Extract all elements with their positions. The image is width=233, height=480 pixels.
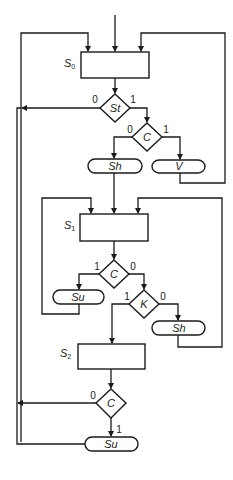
state-s0: S0 [64, 52, 149, 78]
decision-c2: C 1 0 [94, 260, 136, 288]
svg-text:Su: Su [71, 291, 84, 303]
output-su-1: Su [53, 290, 104, 304]
asm-chart: S0 S1 S2 St 0 1 C 0 1 C 1 0 K 1 0 C 0 1 [0, 0, 233, 480]
state-s2: S2 [60, 344, 145, 369]
svg-text:Sh: Sh [172, 322, 185, 334]
svg-text:1: 1 [163, 124, 169, 135]
svg-text:Su: Su [104, 438, 117, 450]
output-sh-2: Sh [152, 321, 205, 335]
decision-k: K 1 0 [124, 290, 166, 318]
svg-text:C: C [107, 397, 115, 409]
svg-text:0: 0 [90, 390, 96, 401]
svg-text:1: 1 [130, 94, 136, 105]
state-s1: S1 [64, 214, 148, 241]
svg-text:0: 0 [92, 94, 98, 105]
svg-text:S2: S2 [60, 347, 71, 360]
output-sh-1: Sh [88, 159, 142, 173]
svg-text:1: 1 [116, 424, 122, 435]
svg-text:1: 1 [124, 291, 130, 302]
svg-text:C: C [143, 131, 151, 143]
svg-text:Sh: Sh [108, 160, 121, 172]
svg-text:S1: S1 [64, 219, 75, 232]
svg-text:S0: S0 [64, 57, 75, 70]
svg-text:0: 0 [130, 261, 136, 272]
output-su-2: Su [85, 437, 138, 451]
svg-text:0: 0 [160, 291, 166, 302]
svg-text:1: 1 [94, 261, 100, 272]
svg-text:0: 0 [127, 124, 133, 135]
svg-text:K: K [140, 298, 148, 310]
decision-c1: C 0 1 [127, 123, 169, 151]
svg-text:St: St [110, 102, 121, 114]
decision-c3: C 0 1 [90, 389, 126, 435]
svg-text:C: C [110, 268, 118, 280]
output-v: V [152, 160, 205, 173]
